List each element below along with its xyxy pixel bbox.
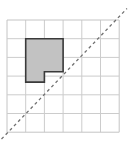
figure-container — [0, 0, 129, 141]
grid-polygon-figure — [0, 0, 129, 141]
